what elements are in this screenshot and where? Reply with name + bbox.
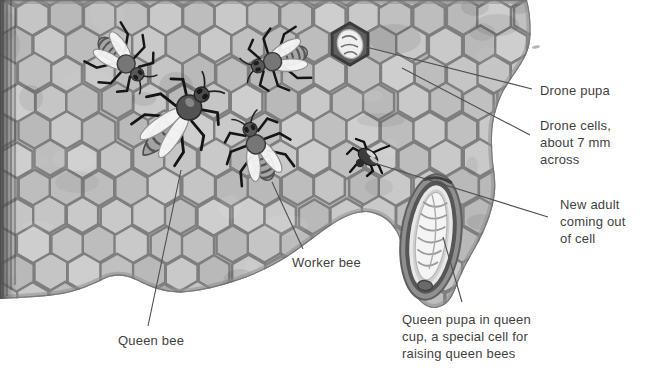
label-queen-pupa: Queen pupa in queen cup, a special cell … [402, 311, 531, 362]
label-new-adult: New adult coming out of cell [560, 196, 626, 247]
label-worker-bee: Worker bee [292, 254, 361, 271]
stray-mark [532, 45, 540, 50]
label-queen-bee: Queen bee [118, 332, 184, 349]
figure: Drone pupaDrone cells, about 7 mm across… [0, 0, 659, 370]
bee-comb-illustration [0, 0, 659, 370]
label-drone-cells: Drone cells, about 7 mm across [540, 117, 611, 168]
drone-pupa-cell [332, 23, 368, 65]
comb-torn-left-edge [0, 0, 18, 300]
label-drone-pupa: Drone pupa [540, 82, 610, 99]
